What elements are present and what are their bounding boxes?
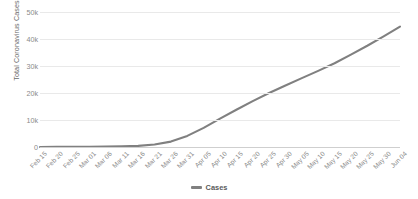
legend-label-cases: Cases (206, 183, 228, 192)
x-tick-label: Apr 05 (193, 150, 212, 169)
x-tick-label: Jun 04 (389, 150, 408, 169)
x-tick-label: Feb 20 (45, 150, 64, 169)
y-tick-label: 0 (4, 143, 38, 152)
gridline (40, 39, 400, 40)
series-cases-line (40, 12, 400, 147)
x-axis-tick-labels: Feb 15Feb 20Feb 25Mar 01Mar 06Mar 11Mar … (40, 150, 400, 180)
legend-marker-cases (191, 186, 202, 189)
x-tick-label: Mar 31 (176, 150, 195, 169)
gridline (40, 93, 400, 94)
x-tick-label: Mar 11 (111, 150, 130, 169)
y-tick-label: 20k (4, 89, 38, 98)
x-tick-label: Mar 16 (127, 150, 146, 169)
gridline (40, 120, 400, 121)
x-tick-label: Mar 21 (143, 150, 162, 169)
gridline (40, 66, 400, 67)
x-tick-label: Apr 10 (209, 150, 228, 169)
y-tick-label: 30k (4, 62, 38, 71)
y-tick-label: 40k (4, 35, 38, 44)
gridline (40, 12, 400, 13)
y-axis-tick-labels: 010k20k30k40k50k (0, 0, 38, 155)
y-tick-label: 50k (4, 8, 38, 17)
x-tick-label: Apr 15 (226, 150, 245, 169)
x-tick-label: Mar 06 (94, 150, 113, 169)
chart-legend: Cases (0, 183, 418, 192)
coronavirus-cases-line-chart: Total Coronavirus Cases 010k20k30k40k50k… (0, 0, 418, 199)
x-tick-label: Feb 25 (61, 150, 80, 169)
x-tick-label: Apr 20 (242, 150, 261, 169)
y-tick-label: 10k (4, 116, 38, 125)
plot-area (40, 12, 400, 147)
chart-title-partial (0, 0, 418, 4)
x-tick-label: Apr 25 (258, 150, 277, 169)
gridline (40, 147, 400, 148)
